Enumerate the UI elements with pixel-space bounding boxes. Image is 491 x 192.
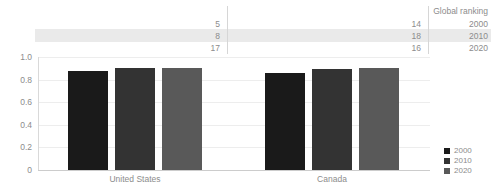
bar-canada-2000[interactable] [265,73,305,170]
legend-label-2010: 2010 [454,156,472,166]
legend-item-2020[interactable]: 2020 [444,166,490,176]
y-axis-tick-0: 0 [0,166,32,175]
legend-label-2000: 2000 [454,146,472,156]
legend-label-2020: 2020 [454,166,472,176]
y-axis-tick-0.6: 0.6 [0,98,32,107]
y-axis-tick-0.8: 0.8 [0,76,32,85]
legend-swatch-2000 [444,148,450,154]
x-axis-label-canada: Canada [272,174,392,184]
bar-canada-2020[interactable] [359,68,399,170]
chart-legend: 2000 2010 2020 [444,146,490,176]
legend-swatch-2010 [444,158,450,164]
chart-figure: Global ranking 5 14 2000 8 18 2010 17 16… [0,0,491,192]
legend-swatch-2020 [444,168,450,174]
bar-united-states-2000[interactable] [68,71,108,170]
bar-united-states-2020[interactable] [162,68,202,170]
plot-area [38,57,430,170]
legend-item-2000[interactable]: 2000 [444,146,490,156]
y-axis-tick-0.2: 0.2 [0,143,32,152]
legend-item-2010[interactable]: 2010 [444,156,490,166]
x-axis-label-united-states: United States [75,174,195,184]
y-axis-tick-0.4: 0.4 [0,121,32,130]
y-axis-tick-1.0: 1.0 [0,53,32,62]
bar-united-states-2010[interactable] [115,68,155,170]
bar-canada-2010[interactable] [312,69,352,170]
bar-chart: 1.00.80.60.40.20 United States Canada 20… [0,0,491,192]
x-axis-line [38,170,430,171]
